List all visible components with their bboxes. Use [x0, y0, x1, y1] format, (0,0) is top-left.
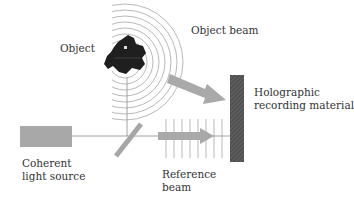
coherent-light-source	[20, 126, 72, 147]
object	[104, 35, 146, 74]
object-beam-label: Object beam	[191, 23, 258, 37]
holographic-recording-plate	[230, 75, 244, 162]
source-label-line1: Coherent	[22, 156, 72, 170]
object-label: Object	[60, 41, 95, 55]
holographic-label-line1: Holographic	[254, 85, 320, 99]
source-label-line2: light source	[22, 169, 85, 183]
reference-beam-arrow	[158, 128, 214, 144]
beam-splitter	[116, 124, 141, 156]
reference-label-line1: Reference	[162, 167, 216, 181]
reference-label-line2: beam	[162, 180, 191, 194]
holographic-label-line2: recording material	[254, 98, 354, 112]
object-beam-arrow	[167, 74, 226, 104]
